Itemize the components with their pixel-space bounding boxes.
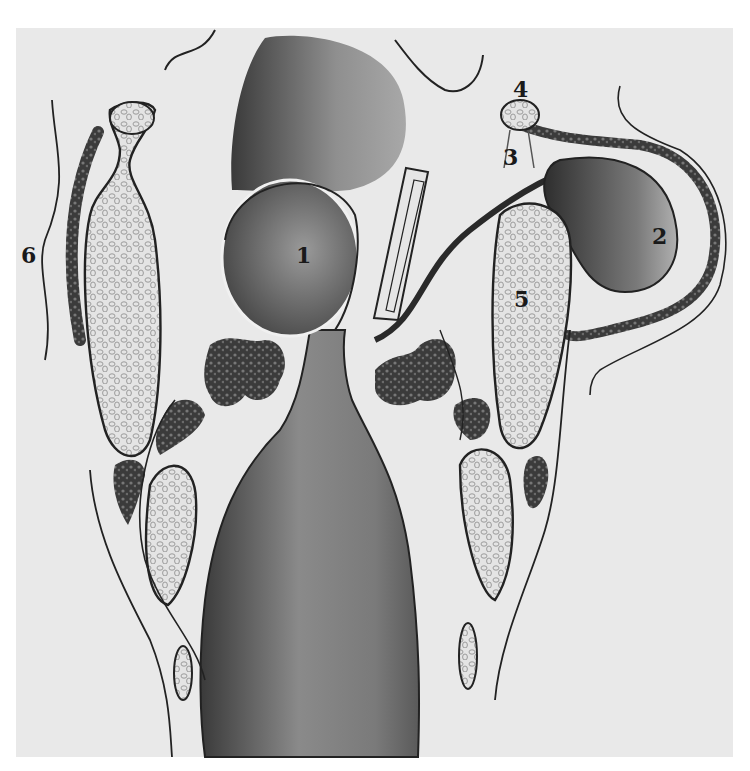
label-4: 4 <box>513 78 528 100</box>
label-6: 6 <box>21 244 36 266</box>
small-right-ring <box>459 623 477 689</box>
label-5: 5 <box>514 288 529 310</box>
muscle-right-2 <box>453 398 490 440</box>
muscle-right-1 <box>375 339 456 405</box>
upper-center-mass <box>231 36 406 193</box>
muscle-left-2 <box>156 400 205 455</box>
structure-1 <box>222 180 358 336</box>
muscle-right-3 <box>524 456 549 508</box>
anatomical-drawing <box>0 0 750 771</box>
small-left-ring <box>174 646 192 700</box>
label-3: 3 <box>503 146 518 168</box>
left-cartilage <box>85 103 160 457</box>
lower-right-cartilage <box>460 449 513 600</box>
label-2: 2 <box>652 225 667 247</box>
muscle-left-1 <box>204 338 285 406</box>
structure-4 <box>501 100 539 130</box>
structure-5 <box>493 204 571 449</box>
label-1: 1 <box>296 244 311 266</box>
structure-6-outline <box>42 100 59 360</box>
